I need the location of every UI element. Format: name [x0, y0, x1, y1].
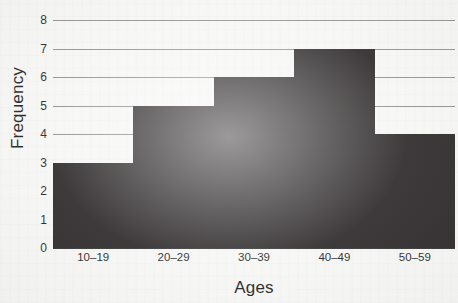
y-tick-label-5: 5 [25, 100, 47, 112]
y-tick-label-3: 3 [25, 157, 47, 169]
bar-20–29 [133, 106, 213, 249]
y-tick-label-2: 2 [25, 185, 47, 197]
histogram-figure: Frequency 012345678 10–1920–2930–3940–49… [0, 0, 458, 303]
bar-10–19 [53, 163, 133, 249]
x-tick-label-20–29: 20–29 [158, 252, 190, 264]
y-tick-label-4: 4 [25, 128, 47, 140]
x-axis-baseline [53, 248, 455, 249]
x-tick-label-30–39: 30–39 [238, 252, 270, 264]
bar-30–39 [214, 77, 294, 248]
gridline-8 [53, 20, 455, 21]
y-axis-ticks: 012345678 [20, 20, 47, 248]
x-axis-title: Ages [53, 278, 455, 298]
bar-40–49 [294, 49, 374, 249]
y-tick-label-6: 6 [25, 71, 47, 83]
y-tick-label-7: 7 [25, 43, 47, 55]
clipped-header-text [0, 0, 458, 2]
y-tick-label-8: 8 [25, 14, 47, 26]
y-tick-label-0: 0 [25, 242, 47, 254]
x-tick-label-50–59: 50–59 [399, 252, 431, 264]
y-tick-label-1: 1 [25, 214, 47, 226]
x-tick-label-40–49: 40–49 [318, 252, 350, 264]
gridline-7 [53, 49, 455, 50]
bar-50–59 [375, 134, 455, 248]
plot-area [53, 20, 455, 248]
x-tick-label-10–19: 10–19 [77, 252, 109, 264]
x-axis-ticks: 10–1920–2930–3940–4950–59 [53, 252, 455, 268]
